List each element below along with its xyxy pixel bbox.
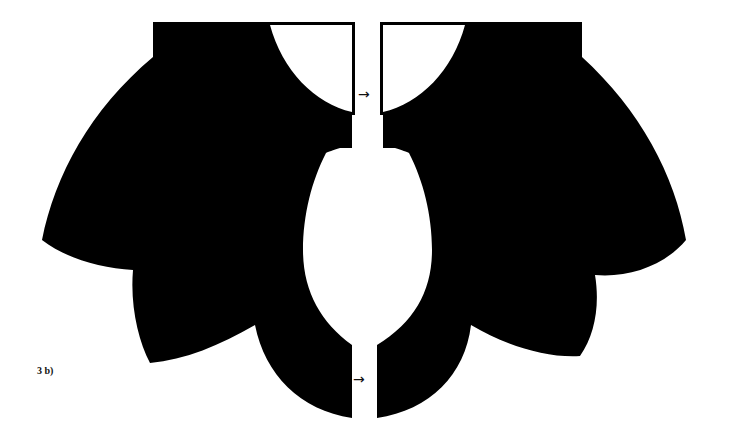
grain-arrow-bottom-icon: → — [353, 372, 365, 386]
right-collar-piece — [377, 22, 686, 418]
pattern-drawing — [0, 0, 730, 443]
figure-label: 3 b) — [37, 365, 53, 376]
collar-pattern-figure: → → 3 b) — [0, 0, 730, 443]
left-collar-piece — [42, 22, 355, 418]
grain-arrow-top-icon: → — [358, 87, 370, 101]
